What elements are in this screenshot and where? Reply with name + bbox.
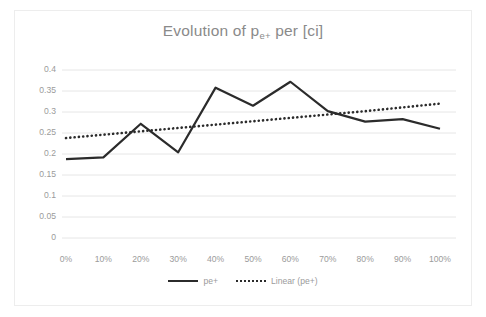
- chart-legend: pe+Linear (pe+): [0, 276, 486, 286]
- y-axis-tick-label: 0: [20, 232, 56, 242]
- x-axis-tick-label: 60%: [282, 254, 299, 264]
- x-axis-tick-label: 70%: [319, 254, 336, 264]
- legend-label: pe+: [203, 276, 218, 286]
- y-axis-tick-label: 0.3: [20, 106, 56, 116]
- x-axis-tick-label: 50%: [244, 254, 261, 264]
- y-axis-tick-label: 0.25: [20, 127, 56, 137]
- chart-container: Evolution of pe+ per [ci] 00.050.10.150.…: [0, 0, 486, 317]
- legend-entry-2[interactable]: Linear (pe+): [236, 276, 318, 286]
- legend-swatch-dotted-icon: [236, 280, 266, 282]
- x-axis-tick-label: 10%: [95, 254, 112, 264]
- legend-swatch-solid-icon: [168, 280, 198, 282]
- x-axis-tick-label: 30%: [170, 254, 187, 264]
- y-axis-tick-label: 0.35: [20, 85, 56, 95]
- y-axis-tick-label: 0.4: [20, 64, 56, 74]
- x-axis-tick-label: 80%: [357, 254, 374, 264]
- y-axis-tick-label: 0.15: [20, 169, 56, 179]
- series-layer: [66, 82, 440, 159]
- x-axis-tick-label: 0%: [60, 254, 72, 264]
- legend-entry-1[interactable]: pe+: [168, 276, 218, 286]
- x-axis-tick-label: 40%: [207, 254, 224, 264]
- legend-label: Linear (pe+): [271, 276, 318, 286]
- x-axis-tick-label: 90%: [394, 254, 411, 264]
- series-line-1: [66, 82, 440, 159]
- plot-area: [0, 0, 486, 317]
- y-axis-tick-label: 0.05: [20, 211, 56, 221]
- x-axis-tick-label: 100%: [429, 254, 451, 264]
- y-axis-tick-label: 0.1: [20, 190, 56, 200]
- y-axis-tick-label: 0.2: [20, 148, 56, 158]
- gridlines: [62, 70, 456, 238]
- x-axis-tick-label: 20%: [132, 254, 149, 264]
